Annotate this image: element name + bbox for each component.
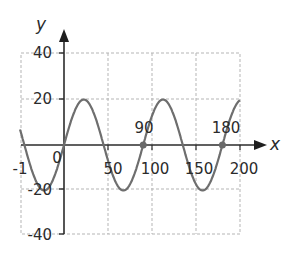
x-tick-label: 200 bbox=[230, 160, 259, 178]
chart: y x 40 20 -20 -40 -1 0 50 100 150 200 90… bbox=[0, 0, 286, 255]
x-tick-label: 0 bbox=[52, 149, 62, 167]
grid bbox=[21, 53, 240, 234]
annotation-180: 180 bbox=[212, 119, 241, 137]
x-tick-label: 50 bbox=[103, 160, 122, 178]
y-tick-label: 20 bbox=[33, 90, 52, 108]
x-tick-label: -1 bbox=[13, 160, 28, 178]
x-axis-label: x bbox=[269, 134, 281, 154]
y-axis-arrow-icon bbox=[59, 29, 69, 42]
x-axis-arrow-icon bbox=[254, 140, 267, 150]
y-axis-label: y bbox=[35, 14, 47, 34]
y-tick-label: 40 bbox=[33, 44, 52, 62]
point-marker-180 bbox=[219, 142, 226, 149]
y-tick-label: -40 bbox=[28, 226, 53, 244]
x-tick-label: 150 bbox=[185, 160, 214, 178]
x-tick-label: 100 bbox=[141, 160, 170, 178]
point-marker-90 bbox=[140, 142, 147, 149]
annotation-90: 90 bbox=[134, 119, 153, 137]
y-tick-label: -20 bbox=[28, 181, 53, 199]
